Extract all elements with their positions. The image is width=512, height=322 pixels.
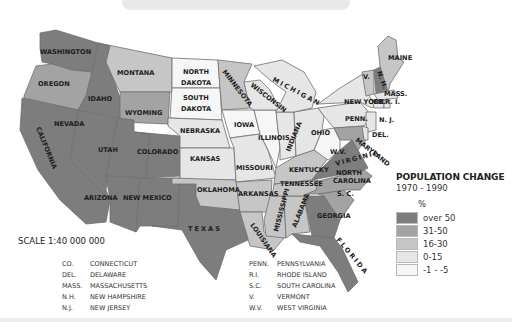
label-west-virginia: W.V. — [330, 148, 346, 156]
label-rhode-island: R. I. — [385, 98, 400, 106]
label-utah: UTAH — [98, 146, 118, 154]
map-scale: SCALE 1:40 000 000 — [18, 236, 105, 246]
abbr-name: PENNSYLVANIA — [277, 260, 325, 268]
label-iowa: IOWA — [234, 121, 255, 129]
abbr-name: MASSACHUSETTS — [90, 282, 147, 290]
legend-label: 31-50 — [423, 226, 448, 236]
label-washington: WASHINGTON — [40, 48, 91, 56]
state-new-mexico — [136, 178, 180, 232]
label-south-carolina: S. C. — [337, 190, 354, 198]
label-new-jersey: N. J. — [379, 116, 394, 124]
abbr-key: CO. — [62, 260, 90, 268]
abbr-name: NEW HAMPSHIRE — [90, 293, 146, 301]
label-colorado: COLORADO — [137, 148, 179, 156]
legend-unit: % — [418, 199, 504, 209]
legend-row-over-50: over 50 — [396, 211, 504, 224]
label-south-dakota-1: SOUTH — [183, 94, 209, 102]
state-arizona — [106, 176, 140, 232]
label-maine: MAINE — [388, 54, 413, 62]
legend-row-negative: -1 - -5 — [396, 263, 504, 276]
legend-row-31-50: 31-50 — [396, 224, 504, 237]
legend-label: 0-15 — [423, 252, 442, 262]
label-illinois: ILLINOIS — [258, 134, 290, 142]
abbr-key: R.I. — [249, 271, 277, 279]
legend-swatch-0-15 — [396, 251, 418, 263]
bottom-divider — [0, 318, 512, 322]
label-wyoming: WYOMING — [125, 109, 162, 117]
abbr-key: PENN. — [249, 260, 277, 268]
abbr-name: CONNECTICUT — [90, 260, 137, 268]
label-south-dakota-2: DAKOTA — [181, 105, 212, 113]
label-oregon: OREGON — [38, 80, 70, 88]
label-nebraska: NEBRASKA — [180, 127, 221, 135]
label-delaware: DEL. — [372, 131, 389, 139]
legend-row-0-15: 0-15 — [396, 250, 504, 263]
label-texas: TEXAS — [188, 225, 222, 233]
label-missouri: MISSOURI — [236, 164, 273, 172]
abbr-key: S.C. — [249, 282, 277, 290]
legend-swatch-31-50 — [396, 225, 418, 237]
legend-swatch-16-30 — [396, 238, 418, 250]
abbr-name: NEW JERSEY — [90, 304, 130, 312]
legend-row-16-30: 16-30 — [396, 237, 504, 250]
label-arizona: ARIZONA — [84, 194, 119, 202]
label-idaho: IDAHO — [88, 95, 113, 103]
abbr-key: V. — [249, 293, 277, 301]
label-kansas: KANSAS — [190, 155, 221, 163]
label-connecticut: CO. — [373, 98, 386, 106]
label-arkansas: ARKANSAS — [238, 190, 279, 198]
legend-swatch-over-50 — [396, 212, 418, 224]
abbr-key: N.H. — [62, 293, 90, 301]
label-montana: MONTANA — [117, 69, 155, 77]
label-pennsylvania: PENN. — [345, 115, 368, 123]
label-kentucky: KENTUCKY — [289, 166, 329, 174]
label-massachusetts: MASS. — [384, 90, 407, 98]
abbr-key: N.J. — [62, 304, 90, 312]
label-tennessee: TENNESSEE — [280, 180, 323, 188]
abbr-name: VERMONT — [277, 293, 310, 301]
label-north-carolina-2: CAROLINA — [333, 177, 372, 185]
label-new-mexico: NEW MEXICO — [123, 194, 172, 202]
label-north-dakota-1: NORTH — [183, 68, 209, 76]
abbr-name: WEST VIRGINIA — [277, 304, 327, 312]
legend-title: POPULATION CHANGE — [396, 172, 504, 182]
label-ohio: OHIO — [311, 129, 331, 137]
abbr-name: DELAWARE — [90, 271, 126, 279]
abbr-name: SOUTH CAROLINA — [277, 282, 335, 290]
label-north-carolina-1: NORTH — [336, 169, 362, 177]
label-oklahoma: OKLAHOMA — [197, 186, 241, 194]
label-nevada: NEVADA — [54, 120, 85, 128]
abbreviations-left: CO.CONNECTICUT DEL.DELAWARE MASS.MASSACH… — [62, 258, 147, 313]
state-kansas — [180, 148, 236, 180]
state-south-dakota — [170, 88, 222, 120]
abbr-name: RHODE ISLAND — [277, 271, 327, 279]
legend-label: -1 - -5 — [423, 265, 448, 275]
label-north-dakota-2: DAKOTA — [181, 79, 212, 87]
abbr-key: MASS. — [62, 282, 90, 290]
legend-label: 16-30 — [423, 239, 448, 249]
legend-swatch-negative — [396, 264, 418, 276]
abbreviations-right: PENN.PENNSYLVANIA R.I.RHODE ISLAND S.C.S… — [249, 258, 335, 313]
label-georgia: GEORGIA — [317, 212, 351, 220]
legend-label: over 50 — [423, 213, 455, 223]
legend-period: 1970 - 1990 — [396, 183, 504, 193]
label-vermont: V. — [363, 73, 370, 81]
legend: POPULATION CHANGE 1970 - 1990 % over 50 … — [396, 172, 504, 276]
abbr-key: W.V. — [249, 304, 277, 312]
abbr-key: DEL. — [62, 271, 90, 279]
